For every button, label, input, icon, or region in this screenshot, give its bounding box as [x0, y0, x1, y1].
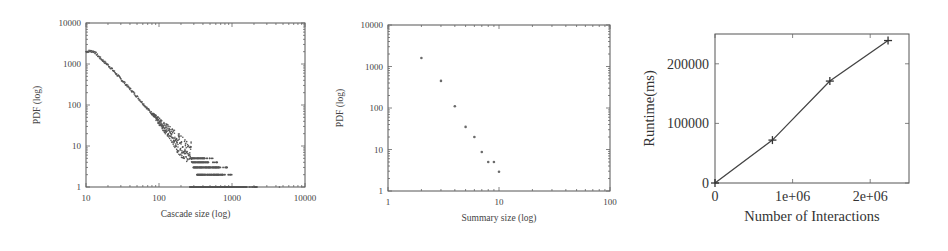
x-axis-title: Summary size (log)	[462, 213, 537, 224]
y-axis-title: Runtime(ms)	[641, 70, 658, 147]
y-tick-label: 100000	[667, 116, 709, 131]
x-tick-label: 1	[386, 197, 391, 207]
data-point	[440, 80, 443, 83]
x-tick-label: 1000	[223, 193, 242, 203]
data-point	[454, 105, 457, 108]
y-axis-title: PDF (log)	[32, 86, 43, 124]
y-tick-label: 1	[77, 182, 82, 192]
y-tick-label: 10	[72, 141, 82, 151]
x-axis-title: Cascade size (log)	[161, 209, 231, 220]
cascade-size-chart: 10100100010000110100100010000Cascade siz…	[32, 18, 317, 220]
data-point	[493, 161, 496, 164]
y-tick-label: 100	[68, 100, 82, 110]
data-point	[473, 136, 476, 139]
figure-panels: 10100100010000110100100010000Cascade siz…	[0, 0, 948, 251]
summary-size-chart: 110100110100100010000Summary size (log)P…	[335, 20, 617, 224]
y-axis-title: PDF (log)	[335, 89, 346, 127]
data-point	[464, 126, 467, 129]
x-tick-label: 1e+06	[775, 189, 810, 204]
plus-marker-icon	[884, 37, 892, 45]
x-tick-label: 100	[152, 193, 166, 203]
data-point	[420, 57, 423, 60]
y-tick-label: 1000	[365, 62, 384, 72]
data-point	[498, 171, 501, 174]
x-tick-label: 0	[712, 189, 719, 204]
y-tick-label: 1000	[63, 59, 82, 69]
y-tick-label: 200000	[667, 57, 709, 72]
y-tick-label: 1	[379, 186, 384, 196]
y-tick-label: 10	[374, 145, 384, 155]
y-tick-label: 10000	[59, 18, 82, 28]
y-tick-label: 10000	[361, 20, 384, 30]
runtime-chart: 01e+062e+060100000200000Number of Intera…	[641, 34, 909, 224]
x-tick-label: 10	[495, 197, 505, 207]
x-axis-title: Number of Interactions	[744, 208, 880, 224]
x-tick-label: 10	[82, 193, 92, 203]
x-tick-label: 10000	[294, 193, 317, 203]
x-tick-label: 100	[603, 197, 617, 207]
runtime-line	[715, 41, 888, 183]
data-point	[487, 161, 490, 164]
plot-frame	[388, 25, 610, 191]
x-tick-label: 2e+06	[853, 189, 888, 204]
data-point	[481, 151, 484, 154]
y-tick-label: 0	[702, 176, 709, 191]
y-tick-label: 100	[370, 103, 384, 113]
